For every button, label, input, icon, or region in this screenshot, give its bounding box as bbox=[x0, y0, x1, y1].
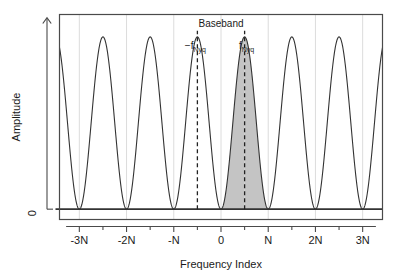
x-tick-label-2: -N bbox=[168, 234, 180, 246]
x-tick-label-5: 2N bbox=[308, 234, 322, 246]
positive-nyquist-subscript: Nyq bbox=[242, 46, 255, 54]
negative-nyquist-label: −f bbox=[185, 40, 194, 51]
figure-container: -3N-2N-N0N2N3N 0 Frequency Index Amplitu… bbox=[0, 0, 406, 275]
aliasing-spectrum-chart: -3N-2N-N0N2N3N 0 Frequency Index Amplitu… bbox=[0, 0, 406, 275]
x-tick-label-3: 0 bbox=[218, 234, 224, 246]
baseband-annotation: Baseband bbox=[198, 18, 243, 29]
x-tick-label-1: -2N bbox=[118, 234, 136, 246]
y-axis-title: Amplitude bbox=[10, 93, 22, 142]
figure-background bbox=[0, 0, 406, 275]
x-axis-title: Frequency Index bbox=[180, 258, 262, 270]
negative-nyquist-subscript: Nyq bbox=[193, 46, 206, 54]
x-tick-label-4: N bbox=[264, 234, 272, 246]
y-tick-label-zero: 0 bbox=[26, 210, 38, 216]
x-tick-label-0: -3N bbox=[70, 234, 88, 246]
x-tick-label-6: 3N bbox=[356, 234, 370, 246]
